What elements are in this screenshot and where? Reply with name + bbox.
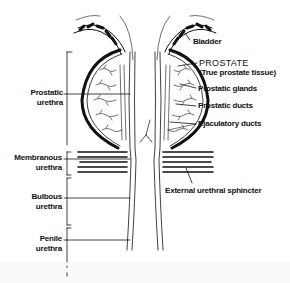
label-prostate: PROSTATE	[199, 58, 249, 68]
label-line: Penile	[8, 234, 62, 244]
prostatic-bracket	[67, 52, 72, 145]
label-bladder: Bladder	[193, 37, 221, 47]
label-membranous-urethra: Membranous urethra	[0, 153, 62, 173]
penile-bracket	[67, 228, 71, 276]
label-line: urethra	[8, 202, 62, 212]
bulbous-bracket	[67, 178, 71, 225]
label-line: Bulbous	[8, 192, 62, 202]
diagram-root: Prostatic urethra Membranous urethra Bul…	[0, 0, 290, 283]
label-line: Membranous	[0, 153, 62, 163]
label-prostatic-glands: Prostatic glands	[198, 84, 257, 94]
label-ejaculatory-ducts: Ejaculatory ducts	[198, 119, 261, 129]
label-prostatic-ducts: Prostatic ducts	[198, 101, 253, 111]
label-line: urethra	[8, 98, 63, 108]
membranous-bracket	[67, 152, 71, 175]
label-prostate-sub: (True prostate tissue)	[199, 68, 276, 78]
label-external-urethral-sphincter: External urethral sphincter	[165, 186, 261, 196]
label-line: urethra	[0, 163, 62, 173]
label-line: urethra	[8, 244, 62, 254]
label-line: Prostatic	[8, 88, 63, 98]
label-prostatic-urethra: Prostatic urethra	[8, 88, 63, 108]
label-penile-urethra: Penile urethra	[8, 234, 62, 254]
label-bulbous-urethra: Bulbous urethra	[8, 192, 62, 212]
